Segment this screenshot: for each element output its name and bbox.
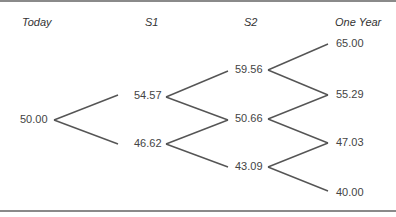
edge-s2uu-up <box>268 44 328 70</box>
edge-today-up <box>54 95 118 120</box>
edge-s1up-up <box>166 71 228 97</box>
node-year-uud: 55.29 <box>336 88 364 100</box>
edge-s2ud-up <box>268 95 328 119</box>
node-today: 50.00 <box>20 113 48 125</box>
edge-s2dd-up <box>268 143 328 167</box>
node-s2-ud: 50.66 <box>235 112 263 124</box>
edge-today-down <box>54 120 118 144</box>
node-s1-up: 54.57 <box>134 89 162 101</box>
edge-s2uu-down <box>268 70 328 95</box>
node-s2-uu: 59.56 <box>235 63 263 75</box>
node-s2-dd: 43.09 <box>235 160 263 172</box>
edge-s1up-down <box>166 97 228 120</box>
edge-s1down-down <box>166 144 228 167</box>
node-year-ddd: 40.00 <box>336 186 364 198</box>
edge-s2dd-down <box>268 167 328 191</box>
node-s1-down: 46.62 <box>134 137 162 149</box>
edge-s1down-up <box>166 120 228 144</box>
edge-s2ud-down <box>268 119 328 143</box>
tree-edges <box>0 0 396 217</box>
node-year-udd: 47.03 <box>336 136 364 148</box>
node-year-uuu: 65.00 <box>336 37 364 49</box>
